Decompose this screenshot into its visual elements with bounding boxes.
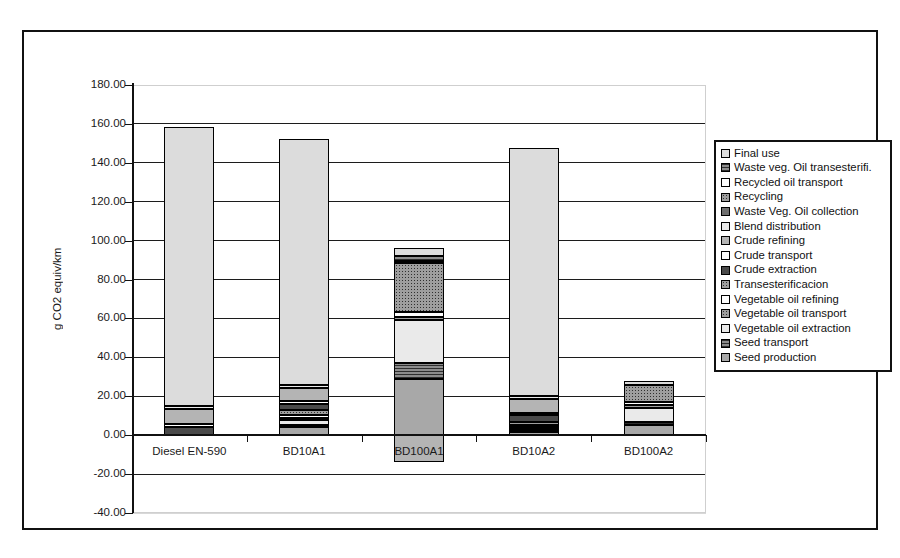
legend-swatch [721,280,730,289]
y-axis-tick-label: 100.00 [62,235,126,247]
x-axis-category-label: BD10A2 [476,445,591,457]
x-axis-tick [591,435,592,442]
bar-segment [394,261,444,263]
legend-item-label: Transesterificacion [734,279,828,290]
bar-segment [624,381,674,385]
bar-segment [394,320,444,363]
bar-segment [509,413,559,416]
y-axis-tick [125,513,133,514]
x-axis-tick [476,435,477,442]
legend-swatch [721,178,730,187]
y-axis-tick-label: 20.00 [62,390,126,402]
chart-legend: Final useWaste veg. Oil transesterifi.Re… [714,140,892,372]
legend-swatch [721,266,730,275]
bar-segment [509,396,559,399]
x-axis-category-label: BD100A2 [591,445,706,457]
legend-item-label: Seed transport [734,337,808,348]
legend-swatch [721,193,730,202]
x-axis-line [132,434,706,436]
bar-segment [279,385,329,388]
legend-item-label: Vegetable oil refining [734,294,839,305]
y-axis-tick-label: 80.00 [62,274,126,286]
legend-item[interactable]: Seed production [721,350,885,365]
bar-segment [509,422,559,425]
legend-item-label: Recycling [734,191,783,202]
legend-item[interactable]: Crude extraction [721,263,885,278]
x-axis-tick [706,435,707,442]
bar-segment [164,409,214,425]
legend-item-label: Vegetable oil transport [734,308,846,319]
y-axis-tick-label: 160.00 [62,118,126,130]
bar-stack [279,32,329,513]
bar-segment [509,427,559,429]
legend-item[interactable]: Recycled oil transport [721,175,885,190]
bar-segment [624,422,674,426]
bar-segment [279,410,329,415]
legend-swatch [721,324,730,333]
bar-segment [509,431,559,433]
legend-swatch [721,295,730,304]
legend-item-label: Vegetable oil extraction [734,323,851,334]
legend-item-label: Blend distribution [734,221,821,232]
legend-item[interactable]: Recycling [721,190,885,205]
bar-segment [509,148,559,396]
x-axis-tick [362,435,363,442]
legend-item[interactable]: Crude refining [721,234,885,249]
bar-segment [624,402,674,405]
legend-swatch [721,236,730,245]
bar-segment [394,379,444,435]
bar-segment [509,425,559,427]
bar-segment [394,317,444,321]
legend-swatch [721,149,730,158]
legend-item-label: Crude extraction [734,264,817,275]
legend-item-label: Recycled oil transport [734,177,843,188]
legend-item[interactable]: Crude transport [721,248,885,263]
legend-swatch [721,163,730,172]
legend-item[interactable]: Waste veg. Oil transesterifi. [721,161,885,176]
y-axis-tick-label: 180.00 [62,79,126,91]
bar-segment [394,248,444,256]
legend-item[interactable]: Final use [721,146,885,161]
legend-item-label: Waste veg. Oil transesterifi. [734,162,872,173]
bar-stack [164,32,214,513]
bar-segment [279,420,329,426]
legend-swatch [721,251,730,260]
legend-swatch [721,309,730,318]
bar-segment [624,385,674,403]
bar-segment [164,406,214,409]
legend-item[interactable]: Vegetable oil refining [721,292,885,307]
bar-stack [394,32,444,513]
legend-item-label: Final use [734,148,780,159]
legend-item[interactable]: Vegetable oil extraction [721,321,885,336]
bar-segment [394,263,444,312]
x-axis-tick [132,435,133,442]
legend-item[interactable]: Vegetable oil transport [721,307,885,322]
chart-frame: g CO2 equiv/km 180.00160.00140.00120.001… [22,30,878,530]
y-axis-tick-label: 120.00 [62,196,126,208]
bar-segment [279,139,329,385]
legend-swatch [721,222,730,231]
legend-item[interactable]: Waste Veg. Oil collection [721,204,885,219]
bar-segment [279,404,329,411]
legend-item-label: Crude refining [734,235,805,246]
legend-swatch [721,353,730,362]
y-axis-tick-label: 40.00 [62,351,126,363]
bar-segment [279,388,329,402]
bar-stack [509,32,559,513]
x-axis-category-label: BD100A1 [362,445,477,457]
legend-item-label: Seed production [734,352,816,363]
legend-item[interactable]: Blend distribution [721,219,885,234]
x-axis-category-label: Diesel EN-590 [132,445,247,457]
y-axis-tick-label: 60.00 [62,312,126,324]
bar-segment [624,408,674,422]
legend-item[interactable]: Transesterificacion [721,277,885,292]
legend-item[interactable]: Seed transport [721,336,885,351]
chart-screenshot: g CO2 equiv/km 180.00160.00140.00120.001… [0,0,900,558]
x-axis-tick [247,435,248,442]
y-axis-tick-label: 140.00 [62,157,126,169]
legend-item-label: Crude transport [734,250,813,261]
x-axis-category-label: BD10A1 [247,445,362,457]
bar-segment [279,418,329,420]
y-axis-tick-label: -20.00 [62,468,126,480]
bar-segment [394,363,444,379]
